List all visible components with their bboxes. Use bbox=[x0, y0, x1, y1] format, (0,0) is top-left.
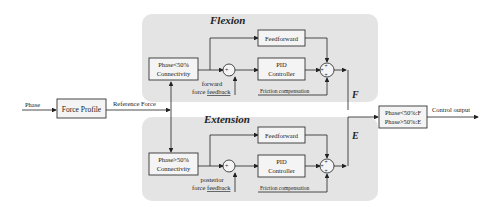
reference-force-label: Reference Force bbox=[113, 100, 156, 107]
svg-text:+: + bbox=[325, 159, 328, 165]
flexion-pid-l1: PID bbox=[276, 61, 287, 68]
minus-sign: - bbox=[230, 72, 232, 78]
flexion-title: Flexion bbox=[209, 14, 245, 26]
extension-pid-l2: Controller bbox=[268, 167, 296, 174]
svg-text:+: + bbox=[321, 67, 324, 73]
flexion-connectivity-label: Connectivity bbox=[157, 70, 191, 77]
extension-output-symbol: E bbox=[351, 130, 359, 141]
extension-feedback-2: force feedback bbox=[192, 184, 231, 191]
control-diagram: Flexion Extension Phase Force Profile Re… bbox=[0, 0, 500, 205]
extension-title: Extension bbox=[203, 113, 250, 125]
flexion-feedback-1: forward bbox=[202, 80, 223, 87]
svg-text:+: + bbox=[325, 63, 328, 69]
force-profile-label: Force Profile bbox=[62, 105, 102, 114]
selector-l1: Phase<50%:F bbox=[385, 109, 422, 116]
flexion-pid-l2: Controller bbox=[268, 70, 296, 77]
selector-l2: Phase>50%:E bbox=[385, 118, 422, 125]
extension-phase-cond: Phase>50% bbox=[158, 156, 189, 163]
flexion-feedforward-label: Feedforward bbox=[265, 35, 299, 42]
extension-friction-label: Friction compensation bbox=[260, 185, 310, 191]
flexion-phase-cond: Phase<50% bbox=[158, 61, 189, 68]
flexion-feedback-2: force feedback bbox=[192, 88, 231, 95]
svg-text:+: + bbox=[321, 163, 324, 169]
svg-text:+: + bbox=[325, 168, 328, 174]
svg-text:+: + bbox=[325, 72, 328, 78]
control-output-label: Control output bbox=[432, 106, 470, 113]
extension-feedback-1: posterior bbox=[200, 176, 224, 183]
flexion-friction-label: Friction compensation bbox=[260, 88, 310, 94]
svg-text:-: - bbox=[230, 168, 232, 174]
flexion-output-symbol: F bbox=[351, 89, 359, 100]
phase-input-label: Phase bbox=[25, 101, 40, 108]
extension-pid-l1: PID bbox=[276, 158, 287, 165]
extension-feedforward-label: Feedforward bbox=[265, 132, 299, 139]
extension-connectivity-label: Connectivity bbox=[157, 165, 191, 172]
